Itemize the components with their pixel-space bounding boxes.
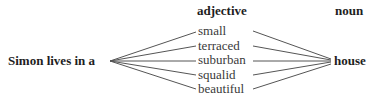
adjective-option: beautiful xyxy=(198,82,244,96)
adjective-option: terraced xyxy=(198,39,240,53)
connector-line xyxy=(253,62,331,75)
noun-column-header: noun xyxy=(335,3,363,19)
adjective-option: small xyxy=(198,24,226,38)
connector-line xyxy=(110,61,196,75)
connector-line xyxy=(110,32,196,61)
connector-line xyxy=(253,31,331,59)
adjective-option: suburban xyxy=(198,53,246,67)
adjective-option: squalid xyxy=(198,68,236,82)
connector-lines xyxy=(0,0,380,103)
noun-word: house xyxy=(334,53,366,69)
adjective-column-header: adjective xyxy=(197,3,247,19)
connector-line xyxy=(110,46,196,61)
subject-phrase: Simon lives in a xyxy=(8,53,95,69)
connector-line xyxy=(110,61,196,89)
connector-line xyxy=(253,64,331,89)
connector-line xyxy=(253,46,331,60)
